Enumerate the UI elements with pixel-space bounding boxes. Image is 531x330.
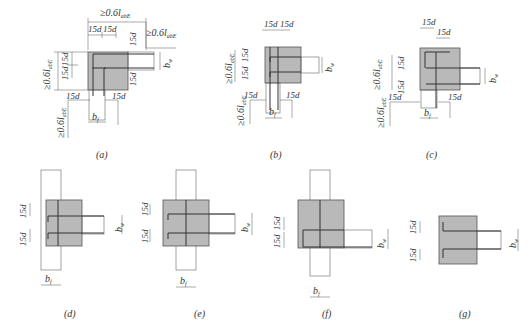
label-hook-3: 15d — [128, 32, 138, 46]
label-hook-1: 15d — [408, 220, 418, 234]
label-hook-1: 15d — [140, 202, 150, 216]
wall-right — [460, 68, 480, 84]
label-bf: bf — [424, 107, 432, 119]
caption-a: (a) — [96, 149, 108, 161]
label-hook-2: 15d — [18, 232, 28, 246]
joint-region — [88, 52, 128, 90]
dim-bottom-hook-right — [105, 100, 118, 125]
label-left-anchor: ≥0.6labE — [223, 53, 235, 84]
label-hook-2: 15d — [103, 24, 117, 34]
panel-d: 15d 15d bf bw (d) — [18, 170, 125, 320]
label-bottom-anchor: ≥0.6labE — [235, 95, 247, 126]
joint-region — [46, 200, 82, 246]
label-bw: bw — [375, 239, 387, 248]
label-hook-4: 15d — [240, 66, 250, 80]
wall-web — [82, 216, 104, 234]
caption-c: (c) — [426, 149, 438, 161]
label-bf: bf — [269, 106, 277, 118]
panel-e: 15d 15d bf bw (e) — [140, 170, 252, 320]
wall-bottom — [421, 90, 437, 108]
label-hook-5: 15d — [60, 52, 70, 66]
caption-e: (e) — [194, 308, 206, 320]
dim-bottom-anchor — [68, 100, 90, 138]
caption-g: (g) — [459, 308, 471, 320]
panel-g: 15d 15d bw (g) — [408, 216, 519, 320]
label-hook-2: 15d — [408, 248, 418, 262]
label-bw: bw — [239, 223, 251, 232]
label-right-anchor: ≥0.6labE — [146, 27, 177, 39]
label-hook-2: 15d — [272, 234, 282, 248]
dim-bottom-anchor — [250, 100, 266, 124]
caption-b: (b) — [270, 149, 282, 161]
label-bw: bw — [113, 223, 125, 232]
label-bw: bw — [487, 74, 499, 83]
label-bw: bw — [323, 63, 335, 72]
wall-web — [209, 214, 235, 234]
label-hook-3: 15d — [240, 48, 250, 62]
label-hook-5: 15d — [388, 92, 402, 102]
wall-web — [477, 231, 501, 249]
label-bottom-anchor: ≥0.6labE — [375, 97, 387, 128]
label-bw: bw — [507, 239, 519, 248]
label-hook-6: 15d — [286, 90, 300, 100]
label-hook-8: 15d — [112, 91, 126, 101]
caption-f: (f) — [322, 308, 332, 320]
label-bf: bf — [313, 285, 321, 297]
dim-bottom-anchor — [390, 102, 420, 126]
label-bf: bf — [180, 275, 188, 287]
wall-right — [128, 52, 154, 70]
panel-f: 15d 15d bf bw (f) — [272, 170, 388, 320]
label-left-anchor: ≥0.6labE — [41, 59, 53, 90]
label-bf: bf — [45, 273, 53, 285]
panel-a: ≥0.6labE 15d 15d ≥0.6labE 15d 15d ≥0.6la… — [41, 7, 177, 161]
label-hook-3: 15d — [396, 56, 406, 70]
label-top-anchor: ≥0.6labE — [100, 7, 131, 19]
label-bf: bf — [92, 111, 100, 123]
label-hook-1: 15d — [272, 216, 282, 230]
figure-canvas: ≥0.6labE 15d 15d ≥0.6labE 15d 15d ≥0.6la… — [0, 0, 531, 330]
label-hook-4: 15d — [128, 72, 138, 86]
wall-web — [344, 230, 372, 248]
label-hook-7: 15d — [66, 91, 80, 101]
label-hook-6: 15d — [60, 66, 70, 80]
panel-b: 15d 15d ≥0.6labE 15d 15d 15d 15d ≥0.6lab… — [223, 19, 335, 161]
label-hook-2: 15d — [437, 27, 451, 37]
label-hook-1: 15d — [422, 17, 436, 27]
panel-c: 15d 15d ≥0.6labE 15d 15d 15d 15d ≥0.6lab… — [371, 17, 499, 161]
dim-bottom-hook — [280, 100, 292, 118]
joint-region — [439, 216, 477, 264]
caption-d: (d) — [64, 308, 76, 320]
label-bw: bw — [161, 59, 173, 68]
label-hook-2: 15d — [140, 229, 150, 243]
label-hook-1: 15d — [264, 19, 278, 29]
label-hook-6: 15d — [448, 92, 462, 102]
label-bottom-anchor: ≥0.6labE — [55, 107, 67, 138]
label-hook-1: 15d — [18, 204, 28, 218]
label-left-anchor: ≥0.6labE — [371, 59, 383, 90]
wall-right — [301, 57, 319, 73]
dim-bottom-hook — [438, 102, 450, 118]
label-hook-2: 15d — [280, 19, 294, 29]
label-hook-1: 15d — [88, 24, 102, 34]
joint-region — [298, 200, 344, 248]
